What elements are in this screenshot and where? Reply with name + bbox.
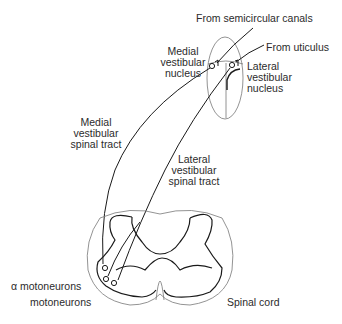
brainstem-section (207, 37, 243, 119)
label-line: nucleus (158, 68, 208, 79)
label-lateral-vestibulospinal-tract: Lateral vestibular spinal tract (164, 154, 224, 187)
label-lateral-vestibular-nucleus: Lateral vestibular nucleus (247, 61, 292, 94)
motoneuron-cells (102, 265, 116, 285)
label-spinal-cord: Spinal cord (227, 297, 280, 308)
medial-nucleus-neuron (209, 60, 218, 69)
label-motoneurons: motoneurons (30, 297, 91, 308)
lateral-tract-branch (108, 222, 140, 276)
lateral-nucleus-neuron (227, 60, 240, 90)
label-medial-vestibulospinal-tract: Medial vestibular spinal tract (66, 117, 126, 150)
label-line: spinal tract (164, 176, 224, 187)
label-line: nucleus (247, 83, 292, 94)
cropped-figure-caption (10, 318, 330, 324)
label-line: spinal tract (66, 139, 126, 150)
grey-matter-right (164, 214, 222, 297)
label-alpha-motoneurons: α motoneurons (11, 281, 81, 292)
label-medial-vestibular-nucleus: Medial vestibular nucleus (158, 46, 208, 79)
semicircular-canal-fiber (217, 28, 253, 63)
label-from-utriculus: From uticulus (266, 42, 329, 53)
label-from-semicircular-canals: From semicircular canals (196, 13, 313, 24)
